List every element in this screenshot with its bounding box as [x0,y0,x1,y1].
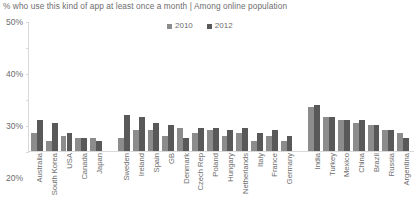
x-axis-label: Czech Rep [197,153,205,191]
x-axis-label: USA [66,153,74,169]
bar [388,130,394,151]
plot-area: 50%40%30%20%10%0% [28,22,414,152]
bar [81,138,87,151]
bar [374,125,380,151]
bar [168,125,174,151]
bar [403,138,409,151]
bar [359,120,365,151]
x-axis-label: Italy [257,153,265,167]
x-axis-label: Germany [286,153,294,184]
bar [124,115,130,151]
bar [52,123,58,151]
x-axis-label: France [271,153,279,177]
x-axis-label: Netherlands [242,153,250,194]
x-axis-label: Denmark [183,153,191,184]
y-axis-label: 50% [6,18,23,27]
y-axis-label: 20% [6,174,23,183]
bar [213,128,219,151]
bar [314,105,320,151]
x-axis-label: Brazil [373,153,381,172]
x-axis-label: Sweden [123,153,131,180]
bars-layer [29,22,414,151]
bar [183,138,189,151]
x-axis-label: Mexico [343,153,351,177]
bar [257,133,263,151]
y-axis-label: 40% [6,70,23,79]
bar [198,128,204,151]
bar-chart: % who use this kind of app at least once… [0,0,417,213]
bar [139,117,145,151]
bar [272,130,278,151]
x-axis-label: South Korea [51,153,59,195]
bar [287,136,293,151]
x-axis-label: Spain [153,153,161,172]
bar [37,120,43,151]
category-labels: AustraliaSouth KoreaUSACanadaJapanSweden… [29,153,414,213]
x-axis-label: Argentina [403,153,411,186]
y-axis-label: 30% [6,122,23,131]
bar [67,133,73,151]
bar [96,141,102,151]
x-axis-label: Ireland [138,153,146,176]
x-axis-label: Russia [388,153,396,176]
x-axis-label: Australia [36,153,44,183]
x-axis-label: Turkey [329,153,337,176]
chart-title: % who use this kind of app at least once… [3,1,287,11]
x-axis-label: Canada [81,153,89,180]
x-axis-label: Poland [212,153,220,177]
bar [242,128,248,151]
x-axis-label: GB [168,153,176,164]
x-axis-label: China [358,153,366,173]
bar [344,120,350,151]
bar [227,130,233,151]
x-axis-label: India [314,153,322,169]
x-axis-label: Japan [96,153,104,174]
x-axis-label: Hungary [227,153,235,182]
bar [329,117,335,151]
bar [153,123,159,151]
